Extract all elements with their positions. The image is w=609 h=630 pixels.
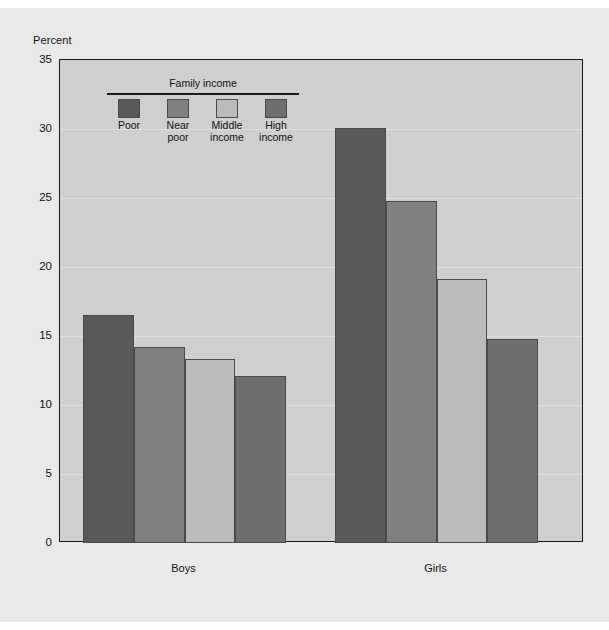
bar <box>487 339 538 543</box>
bar <box>83 315 134 543</box>
x-group-label-boys: Boys <box>171 562 195 574</box>
legend-swatch <box>118 99 140 118</box>
legend-label: High income <box>252 120 300 143</box>
legend-item: Near poor <box>154 99 202 143</box>
gridline <box>60 198 582 199</box>
legend-title: Family income <box>105 77 301 89</box>
bar <box>185 359 236 543</box>
legend-label: Near poor <box>154 120 202 143</box>
legend-divider <box>107 93 299 95</box>
bar <box>386 201 437 543</box>
legend-item: High income <box>252 99 300 143</box>
bar <box>235 376 286 543</box>
legend-swatch <box>216 99 238 118</box>
legend-label: Poor <box>105 120 153 132</box>
bar <box>134 347 185 543</box>
legend-swatch <box>167 99 189 118</box>
legend-label: Middle income <box>203 120 251 143</box>
bar <box>335 128 386 543</box>
legend-item: Middle income <box>203 99 251 143</box>
gridline <box>60 267 582 268</box>
gridline <box>60 336 582 337</box>
chart-figure: Percent 05101520253035 BoysGirls Family … <box>0 0 609 630</box>
legend-item: Poor <box>105 99 153 132</box>
legend-swatch <box>265 99 287 118</box>
x-group-label-girls: Girls <box>424 562 447 574</box>
bar <box>437 279 488 543</box>
y-axis-title: Percent <box>33 34 72 46</box>
legend: Family income PoorNear poorMiddle income… <box>105 77 301 149</box>
